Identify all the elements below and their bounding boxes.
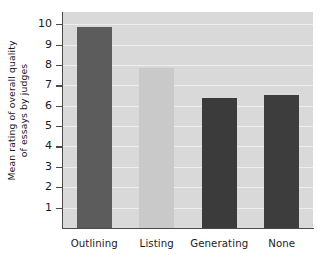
y-tick-mark [56, 146, 63, 147]
bar-chart-figure: Mean rating of overall quality of essays… [0, 0, 320, 267]
gridline [63, 24, 313, 25]
y-axis-title: Mean rating of overall quality of essays… [0, 0, 34, 230]
y-tick-mark [56, 208, 63, 209]
y-tick-mark [56, 187, 63, 188]
y-tick-label: 8 [12, 58, 52, 71]
x-tick-label-listing: Listing [126, 238, 189, 249]
x-axis-line [62, 228, 314, 229]
y-tick-label: 4 [12, 139, 52, 152]
x-tick-label-none: None [251, 238, 314, 249]
y-tick-mark [56, 167, 63, 168]
y-tick-label: 10 [12, 17, 52, 30]
y-tick-label: 7 [12, 78, 52, 91]
x-tick-label-generating: Generating [188, 238, 251, 249]
bar-generating [202, 98, 237, 228]
y-tick-mark [56, 24, 63, 25]
y-tick-label: 2 [12, 180, 52, 193]
y-tick-label: 5 [12, 119, 52, 132]
bar-outlining [77, 27, 112, 228]
y-tick-label: 9 [12, 38, 52, 51]
y-tick-mark [56, 65, 63, 66]
plot-area [63, 12, 313, 228]
y-tick-mark [56, 45, 63, 46]
y-tick-label: 3 [12, 160, 52, 173]
y-tick-mark [56, 126, 63, 127]
bar-listing [139, 68, 174, 228]
y-tick-mark [56, 106, 63, 107]
y-tick-label: 1 [12, 201, 52, 214]
x-tick-label-outlining: Outlining [63, 238, 126, 249]
y-tick-mark [56, 85, 63, 86]
bar-none [264, 95, 299, 228]
y-tick-label: 6 [12, 99, 52, 112]
